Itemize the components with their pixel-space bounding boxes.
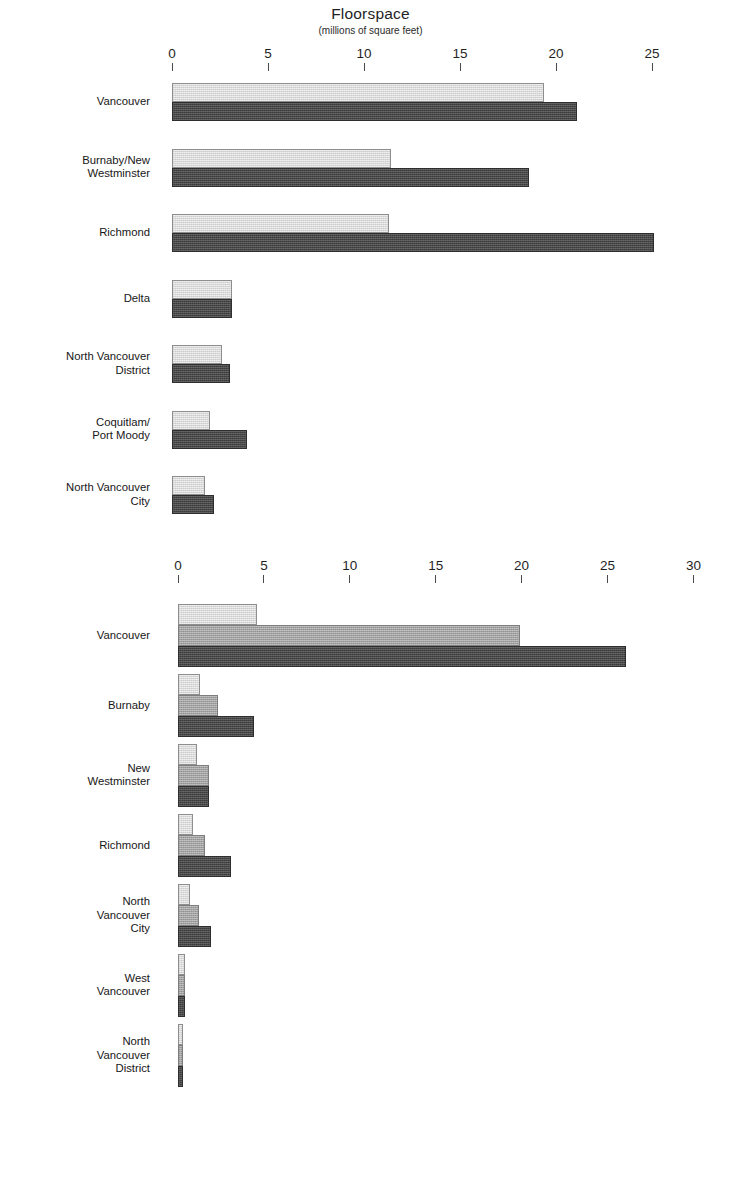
axis-tick-label: 15 bbox=[440, 46, 480, 62]
axis-tick-label: 25 bbox=[588, 558, 628, 574]
bar-dark bbox=[172, 430, 247, 449]
category-label-line: Richmond bbox=[0, 839, 150, 853]
category-label-line: Vancouver bbox=[0, 909, 150, 923]
category-label-line: Richmond bbox=[0, 226, 150, 240]
bar-light bbox=[178, 1024, 183, 1045]
category-label-line: West bbox=[0, 972, 150, 986]
axis-tick-label: 25 bbox=[632, 46, 672, 62]
bar-light bbox=[172, 476, 205, 495]
axis-tick-mark bbox=[652, 63, 653, 71]
category-label-line: North Vancouver bbox=[0, 481, 150, 495]
category-label-text: NorthVancouverCity bbox=[0, 895, 150, 936]
bar-light bbox=[172, 345, 222, 364]
category-label-text: North VancouverDistrict bbox=[0, 350, 150, 377]
category-label-text: WestVancouver bbox=[0, 972, 150, 999]
category-label-text: North VancouverCity bbox=[0, 481, 150, 508]
category-label-text: NorthVancouverDistrict bbox=[0, 1035, 150, 1076]
axis-tick-25: 25 bbox=[588, 558, 628, 583]
bar-light bbox=[172, 280, 232, 299]
gridline bbox=[349, 604, 351, 1118]
category-label-line: City bbox=[0, 495, 150, 509]
category-label-text: NewWestminster bbox=[0, 762, 150, 789]
chart-one-axis: 0510152025 bbox=[0, 46, 741, 74]
category-label-west-vancouver: WestVancouver bbox=[0, 972, 155, 999]
axis-tick-label: 20 bbox=[536, 46, 576, 62]
axis-tick-mark bbox=[364, 63, 365, 71]
category-label-line: Vancouver bbox=[0, 629, 150, 643]
bar-light bbox=[178, 954, 185, 975]
axis-tick-label: 10 bbox=[330, 558, 370, 574]
category-label-line: Burnaby bbox=[0, 699, 150, 713]
bar-light bbox=[178, 744, 197, 765]
bar-mid bbox=[178, 905, 199, 926]
axis-tick-label: 15 bbox=[416, 558, 456, 574]
axis-tick-mark bbox=[460, 63, 461, 71]
bar-dark bbox=[178, 926, 211, 947]
category-label-text: Burnaby bbox=[0, 699, 150, 713]
chart-page: Floorspace (millions of square feet) 051… bbox=[0, 0, 741, 1183]
category-label-text: Richmond bbox=[0, 226, 150, 240]
chart-two-axis: 051015202530 bbox=[0, 558, 741, 586]
bar-mid bbox=[178, 1045, 183, 1066]
category-label-north-vancouver-district: North VancouverDistrict bbox=[0, 350, 155, 377]
axis-tick-10: 10 bbox=[330, 558, 370, 583]
gridline bbox=[263, 604, 265, 1118]
bar-mid bbox=[178, 625, 520, 646]
category-label-text: Vancouver bbox=[0, 629, 150, 643]
bar-dark bbox=[172, 299, 232, 318]
category-label-line: City bbox=[0, 922, 150, 936]
axis-tick-mark bbox=[349, 575, 350, 583]
category-label-new-westminster: NewWestminster bbox=[0, 762, 155, 789]
bar-dark bbox=[172, 233, 654, 252]
bar-dark bbox=[178, 646, 626, 667]
page-title: Floorspace bbox=[0, 4, 741, 23]
bar-dark bbox=[178, 1066, 183, 1087]
gridline bbox=[555, 83, 557, 520]
axis-tick-15: 15 bbox=[416, 558, 456, 583]
axis-tick-mark bbox=[521, 575, 522, 583]
category-label-delta: Delta bbox=[0, 292, 155, 306]
axis-tick-label: 5 bbox=[248, 46, 288, 62]
axis-tick-0: 0 bbox=[158, 558, 198, 583]
axis-tick-label: 30 bbox=[673, 558, 713, 574]
category-label-coquitlam-port-moody: Coquitlam/Port Moody bbox=[0, 416, 155, 443]
axis-tick-mark bbox=[607, 575, 608, 583]
bar-light bbox=[172, 411, 210, 430]
axis-tick-mark bbox=[435, 575, 436, 583]
bar-dark bbox=[178, 786, 209, 807]
gridline bbox=[459, 83, 461, 520]
axis-tick-25: 25 bbox=[632, 46, 672, 71]
axis-tick-0: 0 bbox=[152, 46, 192, 71]
bar-light bbox=[178, 884, 190, 905]
category-label-text: Richmond bbox=[0, 839, 150, 853]
axis-tick-mark bbox=[263, 575, 264, 583]
category-label-line: Westminster bbox=[0, 167, 150, 181]
axis-tick-label: 0 bbox=[158, 558, 198, 574]
axis-tick-mark bbox=[693, 575, 694, 583]
gridline bbox=[607, 604, 609, 1118]
page-subtitle: (millions of square feet) bbox=[0, 24, 741, 38]
category-label-text: Vancouver bbox=[0, 95, 150, 109]
bar-light bbox=[172, 214, 389, 233]
category-label-north-vancouver-city: North VancouverCity bbox=[0, 481, 155, 508]
axis-tick-5: 5 bbox=[244, 558, 284, 583]
category-label-line: Westminster bbox=[0, 775, 150, 789]
category-label-line: North bbox=[0, 1035, 150, 1049]
axis-tick-label: 5 bbox=[244, 558, 284, 574]
category-label-text: Delta bbox=[0, 292, 150, 306]
axis-tick-20: 20 bbox=[536, 46, 576, 71]
bar-dark bbox=[172, 168, 529, 187]
category-label-line: North Vancouver bbox=[0, 350, 150, 364]
bar-light bbox=[172, 83, 544, 102]
bar-dark bbox=[172, 102, 577, 121]
category-label-line: Burnaby/New bbox=[0, 154, 150, 168]
bar-light bbox=[178, 814, 193, 835]
bar-light bbox=[178, 604, 257, 625]
bar-dark bbox=[178, 716, 254, 737]
bar-dark bbox=[172, 364, 230, 383]
category-label-burnaby-new-westminster: Burnaby/NewWestminster bbox=[0, 154, 155, 181]
bar-mid bbox=[178, 975, 185, 996]
axis-tick-label: 0 bbox=[152, 46, 192, 62]
category-label-text: Burnaby/NewWestminster bbox=[0, 154, 150, 181]
category-label-line: Vancouver bbox=[0, 985, 150, 999]
